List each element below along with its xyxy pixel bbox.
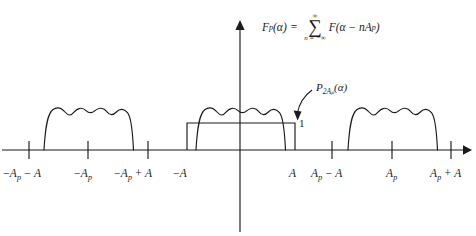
sigma-icon: ∑ xyxy=(308,19,322,35)
figure-canvas xyxy=(0,0,476,236)
axis-label-a: A xyxy=(289,168,296,180)
x-axis-arrowhead xyxy=(463,145,472,155)
window-annotation-subscript: 2Aₚ xyxy=(323,87,334,96)
amplitude-one-label: 1 xyxy=(299,118,305,129)
formula-lhs-arg: (α) xyxy=(273,21,287,33)
summation-lower-limit: n = −∞ xyxy=(304,35,325,42)
axis-label-ap-plus-a: Ap + A xyxy=(430,168,462,182)
formula-rhs-close: ) xyxy=(376,21,380,33)
figure-root: Fp(α) = ∞ ∑ n = −∞ F(α − nAp) P2Aₚ(α) 1 … xyxy=(0,0,476,236)
axis-label-neg-ap-plus-a: −Ap + A xyxy=(114,168,152,182)
axis-label-ap: Ap xyxy=(386,168,397,182)
pulse-replica-right xyxy=(348,108,438,150)
axis-label-ap-minus-a: Ap − A xyxy=(311,168,343,182)
formula-lhs-func: F xyxy=(262,21,269,33)
y-axis-arrowhead xyxy=(235,20,244,30)
window-annotation-label: P2Aₚ(α) xyxy=(316,82,347,95)
annotation-arrow xyxy=(298,90,313,113)
summation-operator: ∞ ∑ n = −∞ xyxy=(304,13,325,42)
formula-expression: Fp(α) = ∞ ∑ n = −∞ F(α − nAp) xyxy=(262,13,380,42)
axis-label-neg-ap: −Ap xyxy=(74,168,92,182)
pulse-replica-left xyxy=(44,108,134,150)
window-annotation-symbol: P xyxy=(316,81,323,93)
formula-equals: = xyxy=(291,21,298,33)
axis-label-neg-ap-minus-a: −Ap − A xyxy=(3,168,41,182)
formula-rhs: F(α − nA xyxy=(329,21,372,33)
window-annotation-arg: (α) xyxy=(334,81,347,93)
axis-label-neg-a: −A xyxy=(173,168,187,180)
rectangular-window xyxy=(187,123,295,150)
pulse-main-center xyxy=(196,108,286,150)
